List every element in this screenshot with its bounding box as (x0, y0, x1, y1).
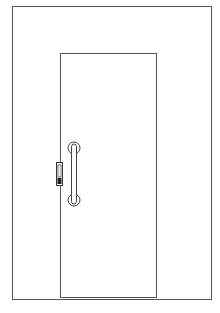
handle-bar (72, 144, 77, 204)
door-drawing (0, 0, 220, 313)
lock-plate (57, 163, 63, 186)
outer-frame (13, 7, 212, 300)
pull-handle[interactable] (68, 142, 80, 206)
